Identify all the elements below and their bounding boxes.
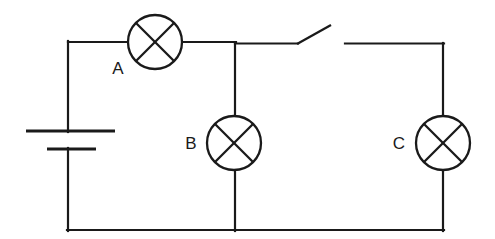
- switch-open[interactable]: [297, 25, 331, 44]
- circuit-schematic: A B C: [0, 0, 495, 239]
- lamp-b-label: B: [185, 134, 196, 153]
- lamp-b: B: [185, 116, 261, 170]
- circuit-diagram-canvas: A B C: [0, 0, 495, 239]
- lamp-a-label: A: [112, 59, 124, 78]
- lamp-c-label: C: [393, 134, 405, 153]
- switch-blade[interactable]: [297, 25, 331, 44]
- battery-symbol: [26, 131, 115, 149]
- lamp-a: A: [112, 15, 182, 78]
- lamp-c: C: [393, 116, 470, 170]
